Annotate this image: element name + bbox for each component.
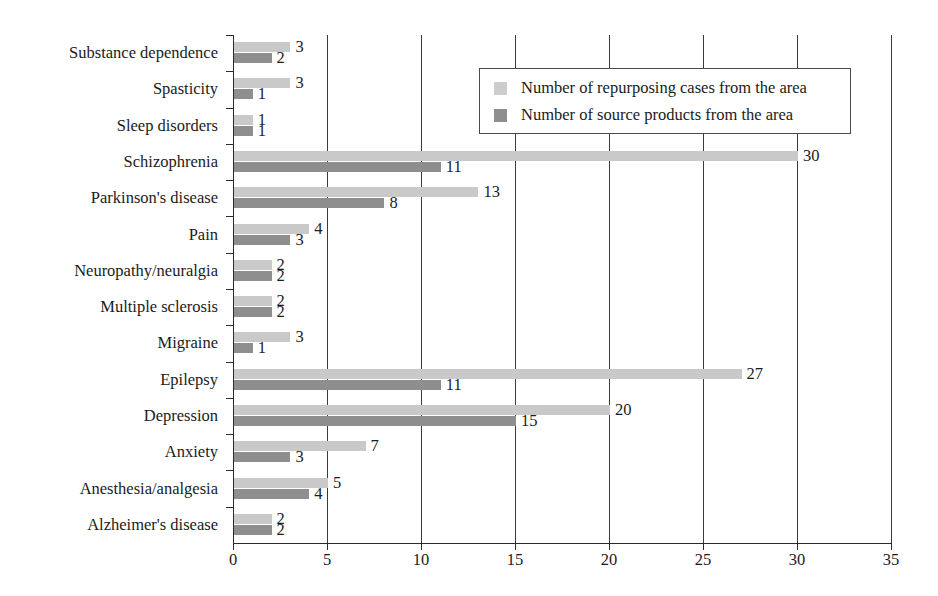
- category-label: Schizophrenia: [124, 154, 218, 171]
- bar-source: [234, 53, 272, 63]
- bar-value-label: 5: [333, 475, 341, 492]
- y-axis-tick-13: [226, 507, 233, 508]
- bar-source: [234, 126, 253, 136]
- x-axis-tick-0: [233, 543, 234, 550]
- bar-repurposing: [234, 260, 272, 270]
- bar-value-label: 3: [295, 39, 303, 56]
- bar-source: [234, 198, 384, 208]
- x-axis-tick-5: [327, 543, 328, 550]
- legend-swatch-repurposing-icon: [494, 82, 507, 95]
- category-label: Anxiety: [165, 444, 218, 461]
- bar-value-label: 2: [277, 50, 285, 67]
- bar-value-label: 1: [258, 86, 266, 103]
- bar-value-label: 4: [314, 221, 322, 238]
- x-axis-tick-25: [703, 543, 704, 550]
- y-axis-tick-4: [226, 180, 233, 181]
- bar-value-label: 30: [803, 148, 820, 165]
- x-axis-line: [233, 543, 892, 544]
- bar-value-label: 1: [258, 123, 266, 140]
- x-axis-tick-label-25: 25: [695, 552, 712, 569]
- category-label: Depression: [144, 408, 218, 425]
- x-axis-tick-label-35: 35: [883, 552, 900, 569]
- y-axis-tick-10: [226, 398, 233, 399]
- bar-repurposing: [234, 115, 253, 125]
- gridline-10: [421, 35, 422, 543]
- bar-source: [234, 89, 253, 99]
- category-label: Epilepsy: [160, 372, 218, 389]
- bar-value-label: 11: [446, 377, 462, 394]
- gridline-35: [891, 35, 892, 543]
- x-axis-tick-label-30: 30: [789, 552, 806, 569]
- category-label: Alzheimer's disease: [87, 517, 218, 534]
- x-axis-tick-label-20: 20: [601, 552, 618, 569]
- bar-value-label: 11: [446, 159, 462, 176]
- category-label: Migraine: [158, 335, 218, 352]
- y-axis-tick-2: [226, 108, 233, 109]
- x-axis-tick-15: [515, 543, 516, 550]
- y-axis-tick-3: [226, 144, 233, 145]
- bar-value-label: 7: [371, 438, 379, 455]
- x-axis-tick-35: [891, 543, 892, 550]
- gridline-5: [327, 35, 328, 543]
- y-axis-tick-8: [226, 325, 233, 326]
- bar-source: [234, 380, 441, 390]
- bar-repurposing: [234, 151, 798, 161]
- legend-item-source: Number of source products from the area: [494, 104, 793, 126]
- legend-swatch-source-icon: [494, 109, 507, 122]
- bar-source: [234, 307, 272, 317]
- bar-value-label: 27: [747, 366, 764, 383]
- legend-label-source: Number of source products from the area: [521, 107, 793, 124]
- bar-value-label: 2: [277, 304, 285, 321]
- bar-source: [234, 162, 441, 172]
- bar-value-label: 4: [314, 486, 322, 503]
- y-axis-tick-9: [226, 362, 233, 363]
- bar-value-label: 1: [258, 340, 266, 357]
- bar-repurposing: [234, 369, 742, 379]
- bar-repurposing: [234, 187, 478, 197]
- category-label: Spasticity: [153, 81, 218, 98]
- bar-value-label: 3: [295, 232, 303, 249]
- bar-source: [234, 416, 516, 426]
- chart-figure: Substance dependenceSpasticitySleep diso…: [0, 0, 938, 596]
- category-label: Neuropathy/neuralgia: [74, 263, 218, 280]
- y-axis-tick-7: [226, 289, 233, 290]
- y-axis-tick-11: [226, 434, 233, 435]
- category-label: Sleep disorders: [117, 118, 218, 135]
- x-axis-tick-label-0: 0: [229, 552, 237, 569]
- x-axis-tick-30: [797, 543, 798, 550]
- category-label: Substance dependence: [69, 45, 218, 62]
- bar-value-label: 15: [521, 413, 538, 430]
- category-label: Multiple sclerosis: [100, 299, 218, 316]
- y-axis-tick-5: [226, 216, 233, 217]
- y-axis-tick-0: [226, 35, 233, 36]
- legend-item-repurposing: Number of repurposing cases from the are…: [494, 77, 807, 99]
- category-label: Anesthesia/analgesia: [80, 481, 218, 498]
- legend-label-repurposing: Number of repurposing cases from the are…: [521, 80, 807, 97]
- x-axis-tick-20: [609, 543, 610, 550]
- bar-repurposing: [234, 514, 272, 524]
- category-label: Pain: [189, 227, 218, 244]
- bar-source: [234, 343, 253, 353]
- x-axis-tick-label-5: 5: [323, 552, 331, 569]
- bar-value-label: 3: [295, 449, 303, 466]
- bar-source: [234, 271, 272, 281]
- bar-value-label: 8: [389, 195, 397, 212]
- bar-repurposing: [234, 296, 272, 306]
- gridline-0: [233, 35, 234, 543]
- x-axis-tick-label-15: 15: [507, 552, 524, 569]
- x-axis-tick-10: [421, 543, 422, 550]
- y-axis-tick-1: [226, 71, 233, 72]
- category-label: Parkinson's disease: [91, 190, 218, 207]
- bar-repurposing: [234, 405, 610, 415]
- y-axis-tick-6: [226, 253, 233, 254]
- bar-source: [234, 235, 290, 245]
- chart-legend: Number of repurposing cases from the are…: [479, 68, 851, 134]
- bar-value-label: 2: [277, 522, 285, 539]
- y-axis-category-labels: Substance dependenceSpasticitySleep diso…: [0, 0, 226, 596]
- bar-value-label: 3: [295, 329, 303, 346]
- x-axis-tick-label-10: 10: [413, 552, 430, 569]
- bar-value-label: 20: [615, 402, 632, 419]
- y-axis-tick-12: [226, 470, 233, 471]
- bar-value-label: 13: [483, 184, 500, 201]
- bar-source: [234, 452, 290, 462]
